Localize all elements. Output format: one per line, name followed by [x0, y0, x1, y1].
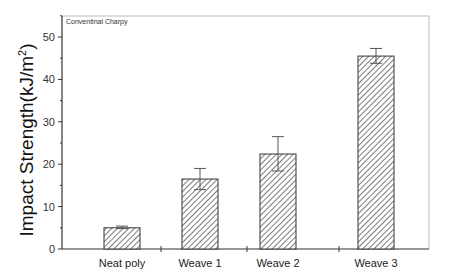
- y-axis-label-close: ): [16, 43, 37, 49]
- bar-weave-1: [182, 168, 218, 249]
- y-tick-label: 30: [43, 116, 55, 128]
- y-tick-label: 40: [43, 73, 55, 85]
- x-category-label: Neat poly: [99, 257, 146, 269]
- x-category-label: Weave 3: [354, 257, 397, 269]
- y-axis-label: Impact Strength(kJ/m2): [16, 43, 37, 236]
- y-tick-label: 20: [43, 158, 55, 170]
- bar-chart: 01020304050 Neat polyWeave 1Weave 2Weave…: [0, 0, 451, 279]
- y-tick-label: 0: [49, 243, 55, 255]
- chart-annotation: Conventinal Charpy: [66, 18, 128, 26]
- y-tick-label: 50: [43, 31, 55, 43]
- x-category-label: Weave 1: [178, 257, 221, 269]
- bars: [104, 48, 394, 249]
- y-axis-label-main: Impact Strength(kJ/m: [16, 56, 37, 237]
- bar-neat-poly: [104, 226, 140, 249]
- bar-weave-3: [358, 48, 394, 249]
- y-tick-label: 10: [43, 201, 55, 213]
- bar-weave-2: [260, 137, 296, 249]
- y-axis: 01020304050: [43, 16, 62, 255]
- x-category-label: Weave 2: [256, 257, 299, 269]
